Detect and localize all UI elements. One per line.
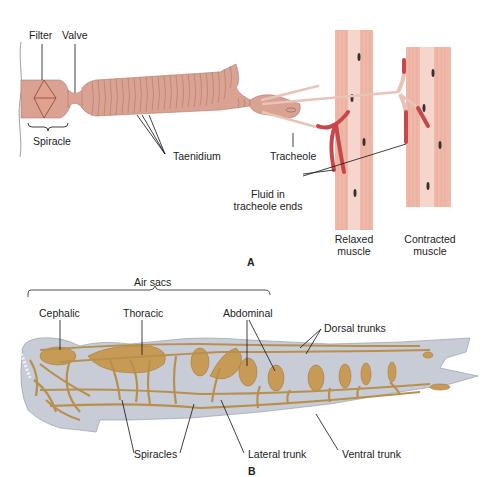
label-thoracic: Thoracic	[123, 307, 163, 319]
panel-b-letter: B	[248, 465, 256, 477]
label-dorsal-trunks: Dorsal trunks	[324, 322, 386, 334]
label-ventral-trunk: Ventral trunk	[342, 448, 401, 460]
label-cephalic: Cephalic	[39, 307, 80, 319]
label-relaxed-muscle: Relaxed muscle	[330, 233, 378, 257]
label-valve: Valve	[62, 29, 88, 41]
relaxed-muscle-fiber	[335, 30, 373, 230]
label-filter: Filter	[29, 29, 52, 41]
abdominal-air-sac	[239, 358, 257, 386]
tracheole-branch	[262, 86, 318, 100]
trachea-trunk	[82, 64, 250, 116]
label-tracheole: Tracheole	[270, 150, 316, 162]
label-contracted-muscle: Contracted muscle	[395, 233, 465, 257]
label-spiracle: Spiracle	[33, 135, 71, 147]
label-fluid-in-tracheole-ends: Fluid in tracheole ends	[228, 188, 308, 212]
valve	[68, 88, 84, 110]
label-spiracles: Spiracles	[134, 448, 177, 460]
label-taenidium: Taenidium	[173, 150, 221, 162]
label-air-sacs: Air sacs	[134, 276, 171, 288]
label-lateral-trunk: Lateral trunk	[248, 448, 306, 460]
label-abdominal: Abdominal	[223, 307, 273, 319]
panel-a-letter: A	[247, 256, 255, 268]
